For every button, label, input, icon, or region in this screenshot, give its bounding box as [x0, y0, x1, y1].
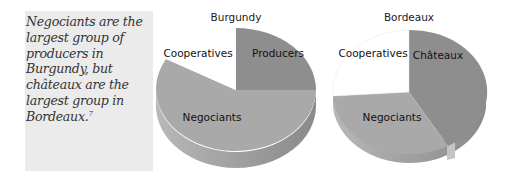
bordeaux-label-negociants: Negociants [363, 111, 422, 123]
burgundy-label-negociants: Negociants [183, 111, 242, 123]
burgundy-label-producers: Producers [252, 47, 304, 59]
burgundy-label-cooperatives: Cooperatives [163, 47, 232, 59]
bordeaux-title: Bordeaux [384, 11, 434, 23]
burgundy-slice-producers [236, 28, 316, 90]
bordeaux-label-cooperatives: Cooperatives [338, 47, 407, 59]
pie-charts: Burgundy Cooperatives Producers Negocian… [0, 0, 514, 180]
bordeaux-slice-cooperatives [333, 30, 409, 96]
bordeaux-pie: Bordeaux Cooperatives Châteaux Negociant… [333, 11, 487, 163]
bordeaux-label-chateaux: Châteaux [413, 49, 463, 61]
burgundy-pie: Burgundy Cooperatives Producers Negocian… [156, 11, 316, 168]
burgundy-title: Burgundy [211, 11, 262, 23]
